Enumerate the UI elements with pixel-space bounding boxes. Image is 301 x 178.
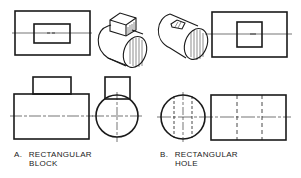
label-b-prefix: B. <box>160 150 168 159</box>
panel-a-isometric <box>98 13 151 71</box>
panel-a-side-view <box>92 77 142 142</box>
label-a-prefix: A. <box>14 150 22 159</box>
label-a: A. RECTANGULAR BLOCK <box>14 150 92 168</box>
panel-b-front-view <box>157 95 291 140</box>
label-b: B. RECTANGULAR HOLE <box>160 150 238 168</box>
label-a-line1: RECTANGULAR <box>29 150 92 159</box>
label-b-line2: HOLE <box>175 159 198 168</box>
label-a-line2: BLOCK <box>29 159 58 168</box>
panel-a-top-view <box>12 11 92 55</box>
label-b-line1: RECTANGULAR <box>175 150 238 159</box>
panel-b-top-view <box>205 12 292 57</box>
panel-b-isometric <box>158 14 211 63</box>
panel-a-front-view <box>10 77 93 139</box>
